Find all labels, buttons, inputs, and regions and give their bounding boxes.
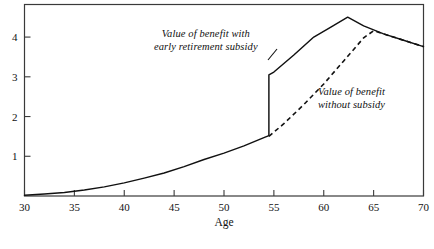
y-tick-label: 4 — [12, 31, 18, 43]
annotation-leader-line — [268, 49, 277, 60]
annotation-with-subsidy: Value of benefit with early retirement s… — [154, 28, 258, 53]
x-tick-label: 60 — [318, 201, 330, 213]
x-tick-label: 40 — [119, 201, 131, 213]
x-tick-label: 45 — [169, 201, 181, 213]
x-axis-title: Age — [214, 216, 233, 229]
x-tick-label: 65 — [368, 201, 380, 213]
annotation-with-subsidy-line2: early retirement subsidy — [154, 41, 258, 54]
y-tick-label: 1 — [12, 150, 18, 162]
y-tick-label: 3 — [12, 71, 18, 83]
chart-figure: 1234 303540455055606570 Age Value of ben… — [0, 0, 434, 249]
y-tick-label: 2 — [12, 111, 18, 123]
x-tick-label: 70 — [418, 201, 430, 213]
x-tick-label: 35 — [69, 201, 81, 213]
y-axis-ticks: 1234 — [12, 31, 31, 162]
annotation-without-subsidy-line2: without subsidy — [318, 99, 385, 112]
series-line-without-subsidy — [269, 31, 424, 137]
annotation-without-subsidy: Value of benefit without subsidy — [318, 86, 385, 111]
annotation-with-subsidy-line1: Value of benefit with — [154, 28, 258, 41]
annotation-without-subsidy-line1: Value of benefit — [318, 86, 385, 99]
x-tick-label: 55 — [268, 201, 280, 213]
x-axis-ticks: 303540455055606570 — [19, 190, 430, 213]
x-tick-label: 30 — [19, 201, 31, 213]
x-tick-label: 50 — [219, 201, 231, 213]
